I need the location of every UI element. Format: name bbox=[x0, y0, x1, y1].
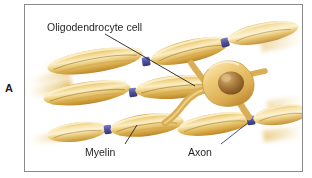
oligodendrocyte-cell-body bbox=[203, 61, 255, 106]
panel-letter-label: A bbox=[5, 82, 13, 94]
myelin-segment bbox=[42, 76, 132, 110]
nucleus bbox=[218, 72, 244, 95]
label-myelin: Myelin bbox=[85, 147, 115, 158]
figure-panel-a: A bbox=[0, 0, 312, 178]
label-axon: Axon bbox=[188, 147, 212, 158]
label-oligodendrocyte-cell: Oligodendrocyte cell bbox=[47, 22, 142, 33]
figure-frame: Oligodendrocyte cell Myelin Axon bbox=[24, 4, 303, 172]
